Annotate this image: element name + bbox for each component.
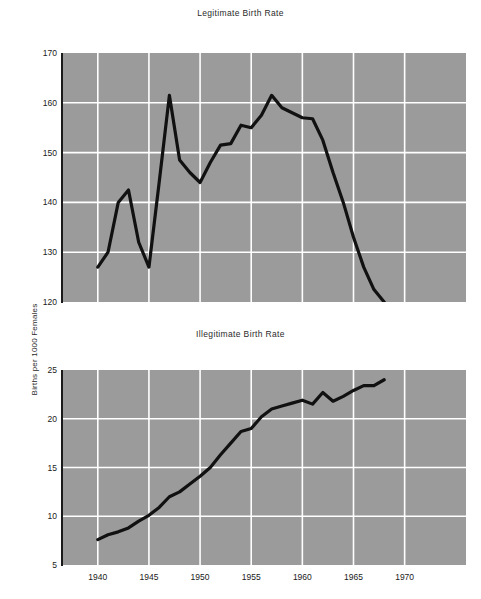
x-tick-label: 1940 bbox=[81, 572, 115, 582]
y-tick-label: 170 bbox=[31, 48, 57, 58]
y-tick-label: 25 bbox=[31, 365, 57, 375]
plot-area-legitimate bbox=[62, 53, 466, 302]
y-tick-label: 10 bbox=[31, 511, 57, 521]
x-tick-label: 1945 bbox=[132, 572, 166, 582]
y-tick-label: 15 bbox=[31, 463, 57, 473]
illegitimate-birth-rate-line-chart bbox=[62, 370, 466, 565]
y-tick-label: 160 bbox=[31, 98, 57, 108]
y-tick-label: 150 bbox=[31, 148, 57, 158]
plot-area-illegitimate bbox=[62, 370, 466, 565]
grid-lines-top bbox=[62, 53, 466, 302]
legitimate-birth-rate-line-chart bbox=[62, 53, 466, 302]
y-axis-line-top bbox=[61, 53, 63, 303]
chart-title-illegitimate: Illegitimate Birth Rate bbox=[0, 329, 481, 339]
x-tick-label: 1960 bbox=[285, 572, 319, 582]
y-tick-label: 140 bbox=[31, 197, 57, 207]
y-axis-label: Births per 1000 Females bbox=[30, 270, 39, 430]
y-axis-line-bottom bbox=[61, 370, 63, 566]
y-tick-label: 120 bbox=[31, 297, 57, 307]
y-tick-label: 5 bbox=[31, 560, 57, 570]
y-tick-label: 20 bbox=[31, 414, 57, 424]
x-tick-label: 1970 bbox=[388, 572, 422, 582]
grid-lines-bottom bbox=[62, 370, 466, 565]
y-tick-label: 130 bbox=[31, 247, 57, 257]
birth-rate-figure: Legitimate Birth Rate Illegitimate Birth… bbox=[0, 0, 481, 599]
legitimate-series-line bbox=[98, 95, 384, 302]
x-tick-label: 1965 bbox=[336, 572, 370, 582]
chart-title-legitimate: Legitimate Birth Rate bbox=[0, 8, 481, 18]
x-tick-label: 1955 bbox=[234, 572, 268, 582]
x-tick-label: 1950 bbox=[183, 572, 217, 582]
